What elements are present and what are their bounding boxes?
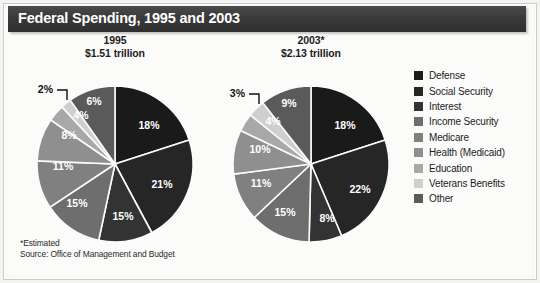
legend-label-income-security: Income Security [429,116,498,127]
pie-2003-label-income-security: 15% [274,206,296,218]
pie-1995-graphic: 18% 21% 15% 15% 11% 8% 4% 2% 6% [20,60,210,256]
pie-2003-label-medicare: 11% [251,177,272,189]
legend-swatch-education [414,164,423,173]
pie-chart-1995: 1995 $1.51 trillion [20,34,210,256]
pie-2003-label-defense: 18% [334,119,356,131]
legend-item-health-medicaid: Health (Medicaid) [414,145,538,160]
legend-swatch-medicare [414,133,423,142]
pie-2003-label-health-medicaid: 10% [249,143,271,155]
pie-1995-label-medicare: 11% [53,160,74,172]
pie-2003-label-interest: 8% [319,212,335,224]
footnote-estimated: *Estimated [20,238,320,249]
page-title: Federal Spending, 1995 and 2003 [18,10,240,26]
legend-label-veterans-benefits: Veterans Benefits [429,178,505,189]
callout-line-veterans-1995 [57,90,67,100]
pie-1995-svg: 18% 21% 15% 15% 11% 8% 4% 2% 6% [20,60,210,256]
legend-swatch-other [414,194,423,203]
callout-line-veterans-2003 [249,94,259,104]
pie-chart-2003: 2003* $2.13 trillion [216,34,406,256]
pie-2003-label-education: 4% [265,115,281,127]
pie-1995-heading: 1995 $1.51 trillion [20,34,210,60]
legend-swatch-income-security [414,117,423,126]
legend-label-health-medicaid: Health (Medicaid) [429,147,505,158]
pie-1995-label-social-security: 21% [151,178,173,190]
title-bar: Federal Spending, 1995 and 2003 [8,6,526,32]
pie-1995-label-income-security: 15% [66,197,88,209]
pie-1995-label-health-medicaid: 8% [61,129,77,141]
pie-2003-year: 2003* [216,34,406,47]
legend-label-education: Education [429,163,472,174]
pie-1995-label-other: 6% [86,95,102,107]
pie-2003-label-veterans-benefits: 3% [230,87,246,99]
pie-1995-label-education: 4% [73,109,89,121]
legend-swatch-interest [414,102,423,111]
footnote-source: Source: Office of Management and Budget [20,249,320,260]
legend-item-education: Education [414,160,538,175]
legend-item-interest: Interest [414,99,538,114]
pie-1995-total: $1.51 trillion [20,47,210,60]
legend-label-other: Other [429,193,453,204]
pie-2003-graphic: 18% 22% 8% 15% 11% 10% 4% 3% 9% [216,60,406,256]
legend-label-interest: Interest [429,101,461,112]
legend-item-defense: Defense [414,68,538,83]
legend-item-income-security: Income Security [414,114,538,129]
pie-2003-label-social-security: 22% [349,183,371,195]
footnotes: *Estimated Source: Office of Management … [20,238,320,260]
pie-2003-total: $2.13 trillion [216,47,406,60]
legend-swatch-veterans-benefits [414,179,423,188]
chart-legend: Defense Social Security Interest Income … [414,68,538,207]
pie-1995-year: 1995 [20,34,210,47]
legend-label-social-security: Social Security [429,86,493,97]
pie-1995-label-interest: 15% [112,210,134,222]
pie-1995-label-veterans-benefits: 2% [38,83,54,95]
pie-1995-label-defense: 18% [138,119,160,131]
legend-item-medicare: Medicare [414,130,538,145]
pie-2003-svg: 18% 22% 8% 15% 11% 10% 4% 3% 9% [216,60,406,256]
legend-label-defense: Defense [429,70,465,81]
chart-page: Federal Spending, 1995 and 2003 1995 $1.… [0,0,540,283]
legend-swatch-health-medicaid [414,148,423,157]
legend-item-social-security: Social Security [414,83,538,98]
legend-swatch-social-security [414,87,423,96]
legend-item-veterans-benefits: Veterans Benefits [414,176,538,191]
legend-label-medicare: Medicare [429,132,469,143]
pie-2003-heading: 2003* $2.13 trillion [216,34,406,60]
legend-swatch-defense [414,71,423,80]
pie-2003-label-other: 9% [281,97,297,109]
legend-item-other: Other [414,191,538,206]
